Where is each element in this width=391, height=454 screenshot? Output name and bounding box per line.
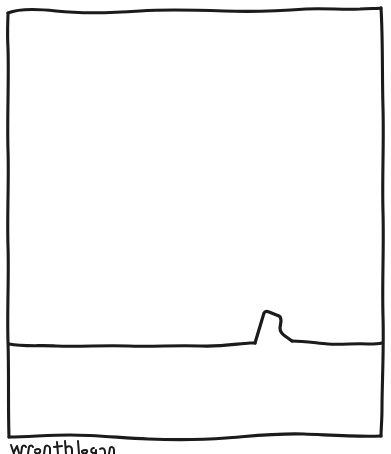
signature-stroke-r — [21, 446, 26, 454]
cartoon-artboard: Blank cartoon panel with horizon and sma… — [0, 0, 391, 454]
cartoon-drawing — [0, 0, 391, 454]
signature-stroke-n2 — [109, 447, 114, 454]
panel-border-left — [8, 13, 9, 437]
panel-border-right — [381, 8, 383, 436]
signature-stroke-a2 — [100, 448, 105, 454]
signature-stroke-g — [91, 448, 96, 454]
signature-stroke-e — [35, 449, 40, 454]
signature-stroke-a — [14, 446, 19, 453]
sky-region — [9, 9, 381, 344]
signature-stroke-n — [44, 446, 50, 454]
signature-stroke-r2 — [28, 446, 33, 454]
signature-stroke-t — [54, 442, 62, 454]
signature-stroke-l — [78, 441, 79, 454]
signature-stroke-h — [65, 441, 72, 454]
signature-stroke-e2 — [82, 450, 87, 454]
artist-signature — [11, 441, 114, 454]
ground-region — [9, 343, 381, 437]
